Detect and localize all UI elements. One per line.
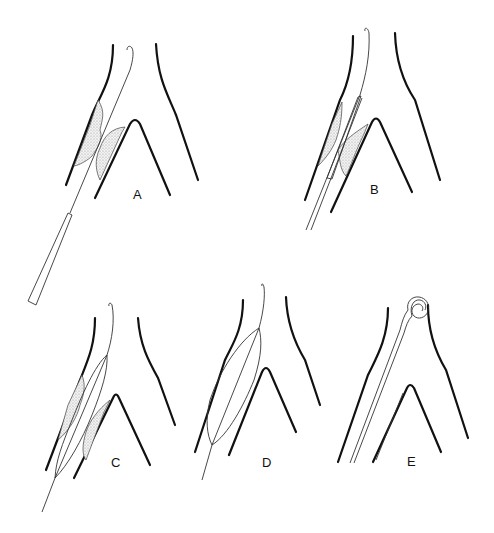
panel-a-label: A [133,187,142,202]
figure-drawing [0,0,494,533]
panel-e-drawing [338,297,468,463]
panel-c-label: C [111,455,120,470]
angioplasty-figure: A B C D E [0,0,494,533]
panel-d-drawing [195,284,320,480]
panel-e-label: E [407,454,416,469]
panel-b-drawing [305,28,440,230]
panel-d-label: D [262,455,271,470]
panel-a-drawing [28,44,198,305]
panel-c-drawing [42,303,175,512]
panel-b-label: B [370,182,379,197]
